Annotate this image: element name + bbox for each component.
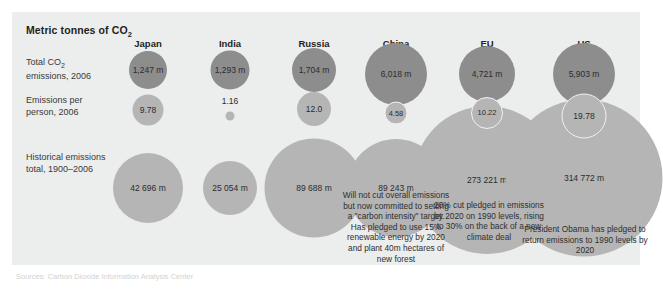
bubble-total-japan: 1,247 m bbox=[129, 51, 167, 89]
bubble-perperson-india-label: 1.16 bbox=[222, 96, 239, 106]
bubble-historical-india: 25 054 m bbox=[203, 161, 257, 215]
row-label-per-person: Emissions per person, 2006 bbox=[26, 95, 83, 118]
bubble-total-eu: 4,721 m bbox=[459, 46, 515, 102]
source-caption: Sources: Carbon Dioxide Information Anal… bbox=[16, 272, 193, 281]
bubble-total-china: 6,018 m bbox=[365, 43, 427, 105]
chart-title: Metric tonnes of CO2 bbox=[26, 24, 132, 39]
column-header-japan: Japan bbox=[134, 38, 161, 49]
bubble-perperson-china: 4.58 bbox=[385, 102, 408, 125]
bubble-total-russia: 1,704 m bbox=[292, 48, 336, 92]
column-header-india: India bbox=[219, 38, 241, 49]
annotation-us: President Obama has pledged to return em… bbox=[519, 224, 651, 256]
chart-panel: Metric tonnes of CO2 Japan India Russia … bbox=[12, 12, 640, 265]
bubble-perperson-japan: 9.78 bbox=[133, 95, 164, 126]
bubble-perperson-india bbox=[226, 112, 235, 121]
bubble-perperson-us: 19.78 bbox=[562, 94, 607, 139]
row-label-total-emissions: Total CO2 emissions, 2006 bbox=[26, 57, 91, 83]
bubble-historical-japan: 42 696 m bbox=[113, 153, 183, 223]
row-label-historical: Historical emissions total, 1900–2006 bbox=[26, 152, 106, 175]
bubble-perperson-eu: 10.22 bbox=[471, 97, 503, 129]
bubble-total-india: 1,293 m bbox=[211, 51, 250, 90]
bubble-perperson-russia: 12.0 bbox=[297, 92, 331, 126]
